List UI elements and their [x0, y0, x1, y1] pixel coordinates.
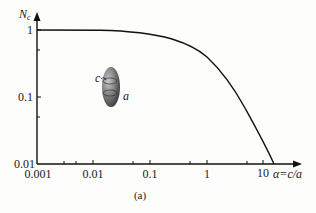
xtick-label-0.01: 0.01 — [83, 167, 104, 181]
xtick-label-0.1: 0.1 — [143, 167, 158, 181]
ellipsoid-label-c: c — [95, 71, 101, 85]
xtick-label-0.001: 0.001 — [25, 167, 52, 181]
ellipsoid-illustration: c a — [95, 67, 129, 107]
x-axis-title: α=c/a — [273, 167, 302, 181]
ellipsoid-label-a: a — [123, 89, 129, 103]
chart: 1 0.1 0.01 0.001 0.01 0.1 1 10 Nc α=c/a … — [0, 0, 316, 213]
xtick-label-10: 10 — [257, 166, 269, 180]
figure-caption: (a) — [134, 189, 147, 202]
ytick-label-1: 1 — [27, 23, 33, 37]
y-axis-title: Nc — [18, 7, 31, 22]
ytick-label-0.1: 0.1 — [18, 90, 33, 104]
xtick-label-1: 1 — [204, 167, 210, 181]
y-axis-arrow-icon — [34, 12, 41, 21]
data-curve — [37, 30, 274, 164]
